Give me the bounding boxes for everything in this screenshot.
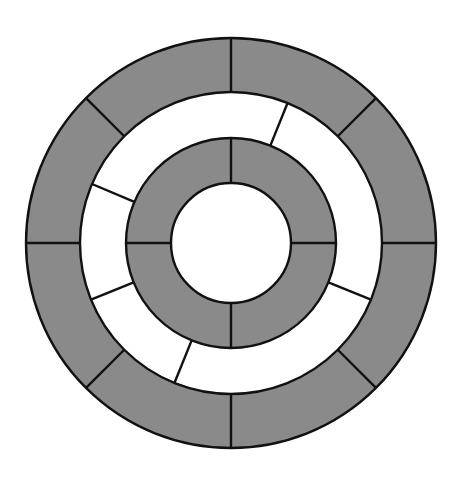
- concentric-ring-diagram: [0, 0, 462, 484]
